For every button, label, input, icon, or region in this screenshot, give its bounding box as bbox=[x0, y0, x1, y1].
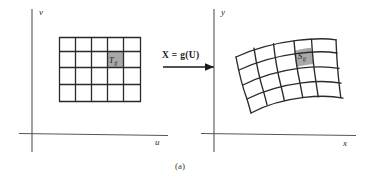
x-axis-line bbox=[201, 134, 356, 136]
uv-grid bbox=[59, 37, 141, 102]
xy-cell-subscript: ij bbox=[303, 56, 306, 62]
uv-cell-subscript: ij bbox=[114, 60, 117, 66]
xy-grid bbox=[236, 39, 343, 113]
x-axis-label: x bbox=[343, 139, 347, 148]
u-axis-line bbox=[19, 134, 168, 136]
mapping-equation-label: X = g(U) bbox=[162, 51, 199, 61]
xy-grid-vline bbox=[312, 39, 319, 97]
figure-canvas bbox=[0, 0, 365, 182]
xy-cell-label: Sij bbox=[298, 52, 305, 61]
mapping-arrow bbox=[163, 63, 214, 71]
uv-axes bbox=[19, 9, 168, 152]
xy-grid-uline bbox=[251, 96, 343, 113]
arrow-head bbox=[205, 63, 214, 71]
figure-caption: (a) bbox=[175, 162, 185, 171]
xy-axes bbox=[201, 9, 356, 152]
uv-cell-label: Tij bbox=[109, 56, 117, 65]
u-axis-label: u bbox=[155, 138, 160, 147]
xy-grid-uline bbox=[236, 39, 336, 57]
xy-cell-letter: S bbox=[298, 51, 302, 61]
v-axis-label: v bbox=[39, 8, 43, 17]
change-of-variables-figure: v u y x X = g(U) Tij Sij (a) bbox=[0, 0, 365, 182]
y-axis-label: y bbox=[221, 8, 225, 17]
